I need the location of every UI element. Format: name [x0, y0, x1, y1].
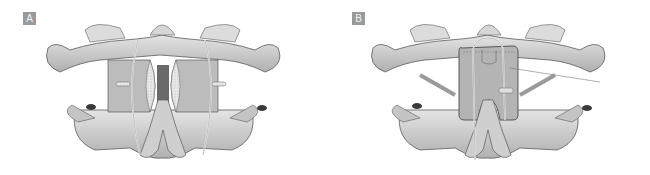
panel-b: B	[325, 0, 650, 175]
vertebrae-illustration-a	[0, 0, 325, 175]
panel-a: A	[0, 0, 325, 175]
vertebrae-illustration-b	[325, 0, 650, 175]
